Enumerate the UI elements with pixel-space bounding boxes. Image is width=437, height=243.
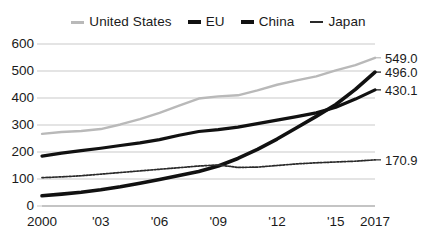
legend-item-united-states: United States [71, 15, 171, 29]
legend-label-china: China [259, 15, 295, 29]
xtick-label-03: '03 [92, 215, 110, 229]
legend-item-japan: Japan [310, 15, 365, 29]
legend-swatch-eu [188, 20, 201, 24]
xtick-label-09: '09 [209, 215, 227, 229]
ytick-label-100: 100 [0, 172, 34, 186]
end-value-label-united-states: 549.0 [385, 51, 418, 64]
ytick-label-200: 200 [0, 145, 34, 159]
legend-swatch-united-states [71, 21, 84, 24]
legend-item-eu: EU [188, 15, 225, 29]
chart-container: United States EU China Japan 549.0430.14… [0, 0, 437, 243]
xtick-label-12: '12 [268, 215, 286, 229]
legend-swatch-japan [310, 21, 323, 23]
ytick-label-0: 0 [0, 199, 34, 213]
legend-label-eu: EU [206, 15, 225, 29]
legend-item-china: China [241, 15, 295, 29]
end-value-label-japan: 170.9 [385, 153, 418, 166]
xtick-label-15: '15 [327, 215, 345, 229]
legend-swatch-china [241, 20, 254, 24]
xtick-label-2000: 2000 [27, 215, 57, 229]
legend-label-japan: Japan [328, 15, 365, 29]
chart-svg [0, 36, 437, 243]
series-line-china [42, 72, 375, 196]
end-value-label-eu: 430.1 [385, 83, 418, 96]
plot-area: 549.0430.1496.0170.901002003004005006002… [0, 36, 437, 243]
series-line-united-states [42, 58, 375, 134]
xtick-label-2017: 2017 [360, 215, 390, 229]
series-line-eu [42, 90, 375, 156]
end-value-label-china: 496.0 [385, 66, 418, 79]
ytick-label-300: 300 [0, 118, 34, 132]
legend-label-united-states: United States [89, 15, 171, 29]
ytick-label-600: 600 [0, 37, 34, 51]
chart-legend: United States EU China Japan [0, 10, 437, 34]
ytick-label-500: 500 [0, 64, 34, 78]
xtick-label-06: '06 [151, 215, 169, 229]
ytick-label-400: 400 [0, 91, 34, 105]
